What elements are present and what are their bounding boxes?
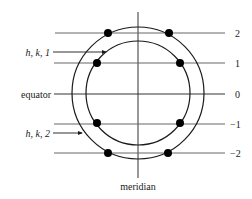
level-label-0: 0	[235, 89, 240, 100]
point	[176, 59, 184, 67]
reciprocal-lattice-diagram: h, k, 1 equator h, k, 2 2 1 0 −1 −2 meri…	[0, 0, 252, 199]
point	[93, 59, 101, 67]
point	[176, 119, 184, 127]
level-label-minus-1: −1	[230, 119, 241, 130]
level-label-1: 1	[235, 58, 240, 69]
label-meridian: meridian	[120, 181, 156, 192]
level-label-2: 2	[235, 28, 240, 39]
point	[164, 149, 172, 157]
point	[165, 29, 173, 37]
point	[93, 119, 101, 127]
point	[104, 29, 112, 37]
label-equator: equator	[21, 89, 52, 100]
label-hk2: h, k, 2	[26, 128, 50, 139]
level-label-minus-2: −2	[230, 148, 241, 159]
point	[104, 149, 112, 157]
label-hk1: h, k, 1	[26, 47, 50, 58]
